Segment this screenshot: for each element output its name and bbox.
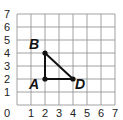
y-tick-label: 4 <box>4 47 10 59</box>
x-tick-label: 1 <box>28 107 34 119</box>
x-tick-label: 0 <box>4 107 10 119</box>
y-axis-labels: 1234567 <box>4 8 10 98</box>
coordinate-grid-diagram: 01234567 1234567 ABD <box>0 0 123 120</box>
point-label-b: B <box>29 36 39 52</box>
y-tick-label: 2 <box>4 73 10 85</box>
x-tick-label: 5 <box>84 107 90 119</box>
x-axis-labels: 01234567 <box>4 107 118 119</box>
x-tick-label: 2 <box>42 107 48 119</box>
x-tick-label: 4 <box>70 107 76 119</box>
x-tick-label: 3 <box>56 107 62 119</box>
point-a <box>42 76 47 81</box>
point-label-d: D <box>75 76 85 92</box>
x-tick-label: 7 <box>112 107 118 119</box>
point-b <box>42 50 47 55</box>
x-tick-label: 6 <box>98 107 104 119</box>
y-tick-label: 6 <box>4 21 10 33</box>
y-tick-label: 3 <box>4 60 10 72</box>
y-tick-label: 1 <box>4 86 10 98</box>
point-label-a: A <box>28 76 39 92</box>
y-tick-label: 5 <box>4 34 10 46</box>
y-tick-label: 7 <box>4 8 10 20</box>
